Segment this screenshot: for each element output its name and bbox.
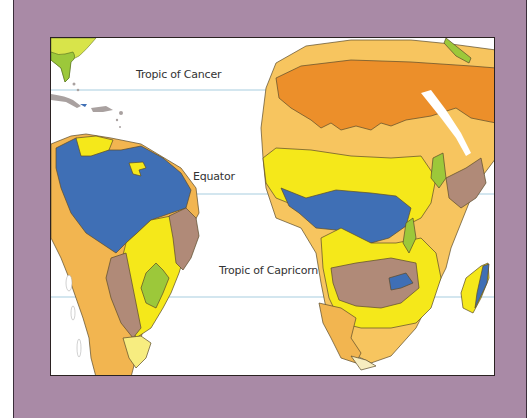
map-panel: Tropic of Cancer Equator Tropic of Capri… <box>50 37 495 376</box>
south-america-region <box>51 134 199 376</box>
map-graphic <box>51 38 495 376</box>
tropic-of-cancer-label: Tropic of Cancer <box>136 68 221 81</box>
tropic-of-capricorn-label: Tropic of Capricorn <box>219 264 318 277</box>
africa-region <box>261 38 495 370</box>
equator-label: Equator <box>193 170 235 183</box>
florida-region <box>51 38 96 82</box>
caribbean-islands <box>51 83 123 129</box>
